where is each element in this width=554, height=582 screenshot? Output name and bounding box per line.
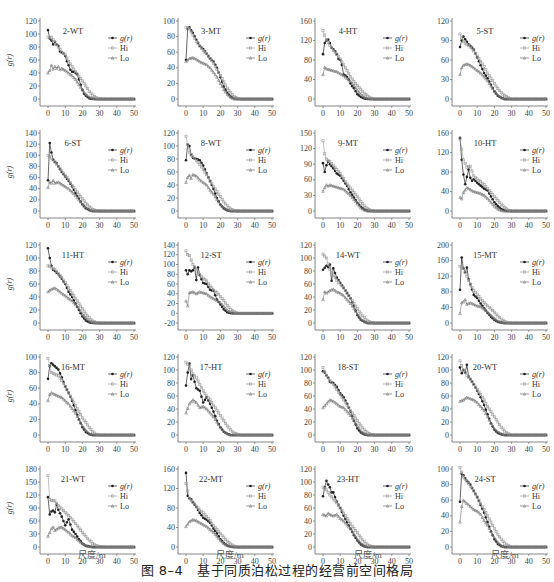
chart-panel-15-mt: 040801201602000102030405015-MTg(r)HiLo (412, 224, 550, 336)
svg-text:Lo: Lo (532, 54, 541, 63)
chart-panel-17-ht: 0204060801001200102030405017-HTg(r)HiLo (138, 336, 276, 448)
svg-text:60: 60 (167, 280, 175, 289)
svg-text:60: 60 (304, 175, 312, 184)
svg-text:g(r): g(r) (120, 258, 133, 267)
chart-panel-12-st: -200204060801001201400102030405012-STg(r… (138, 224, 276, 336)
svg-text:150: 150 (25, 478, 37, 487)
svg-text:16-MT: 16-MT (61, 362, 86, 372)
svg-text:g(r): g(r) (120, 482, 133, 491)
svg-text:0: 0 (171, 543, 175, 552)
svg-text:40: 40 (167, 63, 175, 72)
svg-text:0: 0 (445, 319, 449, 328)
chart-panel-5-st: 0306090120010203040505-STg(r)HiLo (412, 0, 550, 112)
svg-text:60: 60 (304, 280, 312, 289)
svg-text:100: 100 (300, 366, 312, 375)
svg-text:0: 0 (171, 309, 175, 318)
svg-text:80: 80 (304, 56, 312, 65)
svg-text:120: 120 (437, 353, 449, 362)
svg-text:0: 0 (445, 431, 449, 440)
svg-text:Hi: Hi (258, 492, 267, 501)
svg-text:20: 20 (167, 79, 175, 88)
svg-text:24-ST: 24-ST (474, 474, 496, 484)
svg-text:120: 120 (25, 241, 37, 250)
chart-panel-24-st: 0204060801000102030405024-STg(r)HiLo (412, 448, 550, 560)
svg-text:40: 40 (304, 75, 312, 84)
svg-text:g(r): g(r) (120, 370, 133, 379)
svg-text:120: 120 (25, 140, 37, 149)
svg-text:120: 120 (163, 484, 175, 493)
svg-text:14-WT: 14-WT (336, 250, 361, 260)
svg-text:60: 60 (29, 173, 37, 182)
svg-text:Lo: Lo (120, 502, 129, 511)
svg-text:40: 40 (29, 69, 37, 78)
chart-panel-20-wt: 0204060801001200102030405020-WTg(r)HiLo (412, 336, 550, 448)
svg-text:10-HT: 10-HT (474, 138, 497, 148)
svg-text:Hi: Hi (258, 380, 267, 389)
svg-text:0: 0 (445, 543, 449, 552)
svg-text:Hi: Hi (258, 156, 267, 165)
chart-panel-3-mt: 020406080100010203040503-MTg(r)HiLo (138, 0, 276, 112)
svg-text:100: 100 (437, 465, 449, 474)
svg-text:80: 80 (304, 267, 312, 276)
svg-text:80: 80 (304, 491, 312, 500)
chart-panel-16-mt: 02040608010001020304050g(r)16-MTg(r)HiLo (0, 336, 138, 448)
svg-text:80: 80 (167, 270, 175, 279)
svg-text:60: 60 (167, 48, 175, 57)
svg-text:g(r): g(r) (258, 482, 271, 491)
svg-text:Lo: Lo (395, 54, 404, 63)
svg-text:120: 120 (300, 465, 312, 474)
svg-text:g(r): g(r) (532, 146, 545, 155)
svg-text:21-WT: 21-WT (61, 474, 86, 484)
svg-text:120: 120 (25, 491, 37, 500)
svg-text:150: 150 (300, 129, 312, 138)
svg-text:60: 60 (441, 496, 449, 505)
svg-text:120: 120 (437, 17, 449, 26)
chart-panel-6-st: 02040608010012014001020304050g(r)6-STg(r… (0, 112, 138, 224)
svg-text:Lo: Lo (258, 502, 267, 511)
svg-text:-20: -20 (164, 319, 175, 328)
svg-text:Hi: Hi (395, 44, 404, 53)
svg-text:60: 60 (29, 517, 37, 526)
svg-text:Hi: Hi (532, 44, 541, 53)
svg-text:40: 40 (441, 187, 449, 196)
svg-text:9-MT: 9-MT (338, 138, 359, 148)
svg-text:20: 20 (29, 82, 37, 91)
svg-text:80: 80 (29, 162, 37, 171)
svg-text:22-MT: 22-MT (199, 474, 224, 484)
svg-text:Lo: Lo (120, 166, 129, 175)
svg-text:Lo: Lo (395, 166, 404, 175)
svg-text:120: 120 (300, 144, 312, 153)
svg-text:0: 0 (308, 95, 312, 104)
svg-text:60: 60 (29, 56, 37, 65)
svg-text:60: 60 (304, 504, 312, 513)
svg-text:80: 80 (29, 368, 37, 377)
svg-text:8-WT: 8-WT (201, 138, 222, 148)
svg-text:40: 40 (304, 405, 312, 414)
svg-text:80: 80 (441, 287, 449, 296)
svg-text:140: 140 (25, 129, 37, 138)
svg-text:18-ST: 18-ST (337, 362, 359, 372)
svg-text:160: 160 (437, 256, 449, 265)
chart-grid: 02040608010012001020304050g(r)2-WTg(r)Hi… (0, 0, 554, 560)
svg-text:g(r): g(r) (5, 501, 14, 514)
chart-panel-10-ht: 040801201600102030405010-HTg(r)HiLo (412, 112, 550, 224)
svg-text:120: 120 (300, 36, 312, 45)
svg-text:100: 100 (163, 366, 175, 375)
svg-text:Lo: Lo (120, 390, 129, 399)
svg-text:20: 20 (441, 418, 449, 427)
svg-text:Lo: Lo (532, 166, 541, 175)
svg-text:160: 160 (437, 129, 449, 138)
svg-text:g(r): g(r) (395, 482, 408, 491)
svg-text:Hi: Hi (395, 156, 404, 165)
svg-text:0: 0 (33, 431, 37, 440)
svg-text:80: 80 (441, 379, 449, 388)
svg-text:90: 90 (304, 160, 312, 169)
svg-text:3-MT: 3-MT (201, 26, 222, 36)
svg-text:g(r): g(r) (258, 258, 271, 267)
svg-text:20: 20 (304, 530, 312, 539)
svg-text:120: 120 (437, 148, 449, 157)
svg-text:80: 80 (441, 168, 449, 177)
svg-text:20-WT: 20-WT (473, 362, 498, 372)
svg-text:Lo: Lo (258, 166, 267, 175)
svg-text:120: 120 (25, 17, 37, 26)
